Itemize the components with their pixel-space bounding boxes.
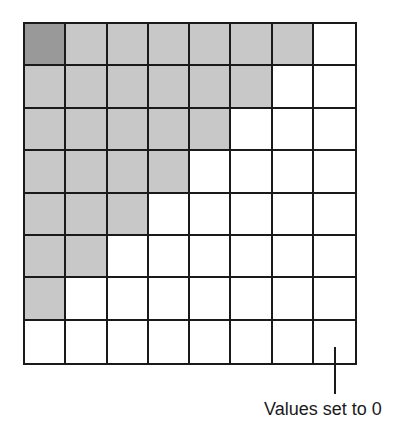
- grid-cell-empty: [66, 321, 107, 363]
- grid-cell-empty: [314, 66, 355, 108]
- grid-cell-empty: [231, 151, 272, 193]
- grid-cell-shaded: [108, 24, 149, 66]
- grid-cell-empty: [273, 321, 314, 363]
- grid-cell-empty: [25, 321, 66, 363]
- grid-cell-empty: [149, 194, 190, 236]
- grid-cell-shaded: [66, 109, 107, 151]
- grid-cell-shaded: [149, 66, 190, 108]
- grid-cell-shaded: [108, 109, 149, 151]
- grid-cell-empty: [231, 321, 272, 363]
- grid-cell-shaded: [149, 109, 190, 151]
- grid-cell-empty: [314, 109, 355, 151]
- grid-cell-shaded: [66, 151, 107, 193]
- annotation-label: Values set to 0: [264, 399, 382, 420]
- grid-cell-highlight: [25, 24, 66, 66]
- grid-cell-empty: [273, 236, 314, 278]
- grid-cell-empty: [273, 109, 314, 151]
- grid-cell-empty: [273, 151, 314, 193]
- grid-cell-shaded: [25, 236, 66, 278]
- grid-cell-empty: [273, 278, 314, 320]
- grid-cell-empty: [231, 194, 272, 236]
- grid-cell-shaded: [190, 24, 231, 66]
- grid-cell-shaded: [66, 194, 107, 236]
- grid-cell-shaded: [25, 194, 66, 236]
- grid-cell-empty: [314, 278, 355, 320]
- grid-cell-shaded: [149, 24, 190, 66]
- grid-cell-shaded: [25, 278, 66, 320]
- grid-cell-empty: [190, 278, 231, 320]
- grid-cell-empty: [190, 236, 231, 278]
- grid-cell-shaded: [231, 66, 272, 108]
- grid-cell-shaded: [190, 109, 231, 151]
- grid-cell-shaded: [108, 194, 149, 236]
- grid-cell-shaded: [25, 109, 66, 151]
- grid-cell-empty: [231, 236, 272, 278]
- grid-cell-shaded: [108, 66, 149, 108]
- grid-cell-empty: [66, 278, 107, 320]
- grid-cell-empty: [314, 151, 355, 193]
- grid-cell-empty: [190, 151, 231, 193]
- grid-cell-empty: [314, 24, 355, 66]
- annotation-leader-line: [334, 347, 336, 394]
- grid-cell-empty: [273, 194, 314, 236]
- grid-cell-empty: [108, 321, 149, 363]
- grid-cell-empty: [108, 278, 149, 320]
- grid-cell-shaded: [273, 24, 314, 66]
- grid-cell-shaded: [25, 66, 66, 108]
- grid-cell-shaded: [149, 151, 190, 193]
- grid-cell-shaded: [66, 66, 107, 108]
- grid-cell-shaded: [190, 66, 231, 108]
- grid-cell-shaded: [66, 236, 107, 278]
- grid-cell-empty: [231, 278, 272, 320]
- grid-cell-shaded: [231, 24, 272, 66]
- coefficient-grid: [23, 22, 357, 365]
- grid-cell-shaded: [108, 151, 149, 193]
- grid-cell-empty: [314, 194, 355, 236]
- grid-cell-empty: [314, 236, 355, 278]
- grid-cell-empty: [190, 321, 231, 363]
- grid-cell-empty: [149, 278, 190, 320]
- grid-cell-empty: [273, 66, 314, 108]
- grid-cell-empty: [149, 236, 190, 278]
- grid-cell-empty: [231, 109, 272, 151]
- grid-cell-shaded: [66, 24, 107, 66]
- grid-cell-empty: [108, 236, 149, 278]
- grid-cell-shaded: [25, 151, 66, 193]
- grid-cell-empty: [190, 194, 231, 236]
- grid-cell-empty: [149, 321, 190, 363]
